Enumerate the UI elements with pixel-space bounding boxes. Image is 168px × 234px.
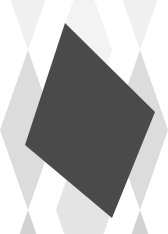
abstract-image bbox=[0, 0, 168, 234]
